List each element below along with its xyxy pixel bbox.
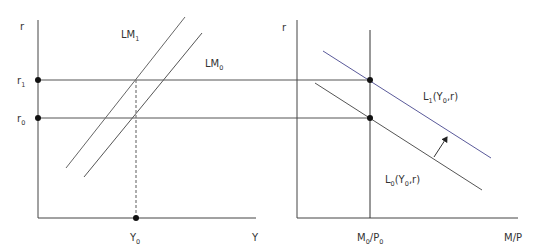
left-panel: r r1 r0 LM1 LM0 Y0 Y xyxy=(17,17,370,246)
right-panel: r L1(Y0,r) L0(Y0,r) M0/P0 M/P xyxy=(282,20,522,246)
l0-equilibrium-dot xyxy=(367,115,373,121)
lm0-curve xyxy=(84,33,202,177)
islm-diagram: r r1 r0 LM1 LM0 Y0 Y r L1(Y0,r) L0(Y0,r)… xyxy=(0,0,544,250)
r1-label: r1 xyxy=(17,75,25,89)
lm0-label: LM0 xyxy=(205,58,223,72)
l1-equilibrium-dot xyxy=(367,77,373,83)
right-x-axis-label: M/P xyxy=(504,232,522,243)
m0-p0-label: M0/P0 xyxy=(357,232,383,246)
y0-dot xyxy=(133,215,139,221)
r1-dot xyxy=(35,77,41,83)
right-y-axis-label: r xyxy=(282,22,287,33)
y0-label: Y0 xyxy=(129,232,140,246)
r0-dot xyxy=(35,115,41,121)
left-x-axis-label: Y xyxy=(251,232,259,243)
l1-label: L1(Y0,r) xyxy=(423,91,458,105)
shift-arrow-icon xyxy=(434,137,447,157)
left-y-axis-label: r xyxy=(20,21,25,32)
r0-label: r0 xyxy=(17,113,25,127)
l0-label: L0(Y0,r) xyxy=(385,174,420,188)
lm1-label: LM1 xyxy=(121,29,139,43)
